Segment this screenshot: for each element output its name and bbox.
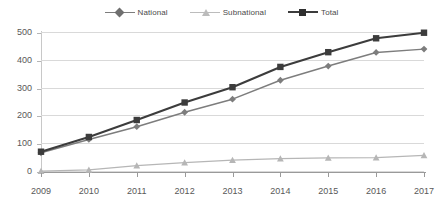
gridline bbox=[41, 88, 424, 89]
legend-item-subnational[interactable]: Subnational bbox=[190, 8, 266, 17]
x-tick-mark bbox=[137, 173, 138, 177]
x-axis-tick-label: 2017 bbox=[404, 186, 443, 196]
x-tick-mark bbox=[328, 173, 329, 177]
legend-label-national: National bbox=[138, 8, 168, 17]
y-axis-tick-label: 400 bbox=[0, 55, 32, 65]
y-tick-mark bbox=[37, 116, 41, 117]
plot-area bbox=[41, 32, 424, 173]
y-axis-tick-label: 100 bbox=[0, 138, 32, 148]
line-chart: National Subnational Total 0100200300400… bbox=[0, 0, 443, 208]
legend-swatch-total bbox=[288, 8, 318, 17]
x-axis-tick-label: 2010 bbox=[69, 186, 109, 196]
gridline bbox=[41, 171, 424, 172]
x-axis-tick-label: 2012 bbox=[165, 186, 205, 196]
square-marker-icon bbox=[299, 9, 306, 16]
diamond-marker-icon bbox=[114, 7, 124, 17]
y-axis-tick-label: 200 bbox=[0, 110, 32, 120]
y-tick-mark bbox=[37, 89, 41, 90]
x-axis-tick-label: 2016 bbox=[356, 186, 396, 196]
gridline bbox=[41, 143, 424, 144]
legend-label-subnational: Subnational bbox=[223, 8, 266, 17]
y-tick-mark bbox=[37, 144, 41, 145]
y-tick-mark bbox=[37, 33, 41, 34]
x-tick-mark bbox=[280, 173, 281, 177]
x-tick-mark bbox=[41, 173, 42, 177]
chart-legend: National Subnational Total bbox=[0, 4, 443, 20]
x-tick-mark bbox=[233, 173, 234, 177]
legend-swatch-subnational bbox=[190, 8, 220, 17]
gridline bbox=[41, 115, 424, 116]
legend-item-total[interactable]: Total bbox=[288, 8, 338, 17]
legend-swatch-national bbox=[105, 8, 135, 17]
y-axis-tick-label: 0 bbox=[0, 166, 32, 176]
gridline bbox=[41, 60, 424, 61]
gridline bbox=[41, 32, 424, 33]
y-axis-tick-label: 500 bbox=[0, 27, 32, 37]
legend-item-national[interactable]: National bbox=[105, 8, 168, 17]
legend-label-total: Total bbox=[321, 8, 338, 17]
x-axis-tick-label: 2014 bbox=[260, 186, 300, 196]
triangle-marker-icon bbox=[202, 9, 210, 16]
y-tick-mark bbox=[37, 61, 41, 62]
x-tick-mark bbox=[185, 173, 186, 177]
x-axis-tick-label: 2009 bbox=[21, 186, 61, 196]
x-axis-tick-label: 2013 bbox=[213, 186, 253, 196]
x-axis-tick-label: 2011 bbox=[117, 186, 157, 196]
x-tick-mark bbox=[89, 173, 90, 177]
y-axis-tick-label: 300 bbox=[0, 83, 32, 93]
x-axis-tick-label: 2015 bbox=[308, 186, 348, 196]
x-tick-mark bbox=[376, 173, 377, 177]
x-tick-mark bbox=[424, 173, 425, 177]
